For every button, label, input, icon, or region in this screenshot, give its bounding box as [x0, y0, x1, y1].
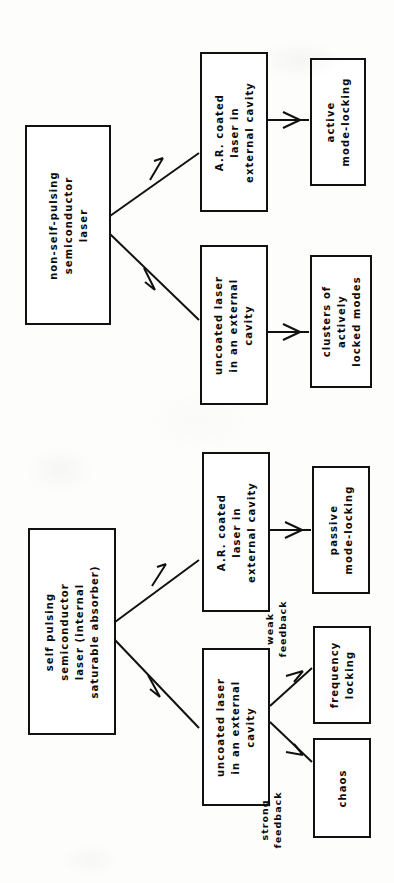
- chaos-box[interactable]: chaos: [313, 738, 371, 838]
- passive-mode-locking-label: passive mode-locking: [326, 485, 356, 574]
- text-line: laser (internal: [72, 565, 87, 698]
- text-line: feedback: [271, 792, 284, 849]
- weak-feedback-text: weak feedback: [263, 601, 289, 658]
- text-line: A.R. coated: [214, 482, 229, 583]
- edge-root-to-uncoated: [115, 640, 199, 728]
- text-line: uncoated laser: [214, 677, 229, 776]
- text-line: passive: [326, 485, 341, 574]
- frequency-locking-box[interactable]: frequency locking: [313, 626, 371, 724]
- ar-coated-laser-box[interactable]: A.R. coated laser in external cavity: [202, 452, 270, 612]
- arrowhead-uncoated-to-chaos: [286, 744, 303, 755]
- text-line: external cavity: [244, 482, 259, 583]
- edge-uncoated-to-chaos: [270, 722, 312, 762]
- frequency-locking-label: frequency locking: [327, 642, 357, 709]
- passive-mode-locking-box[interactable]: passive mode-locking: [312, 466, 370, 594]
- strong-feedback-text: strong feedback: [258, 792, 284, 849]
- diagram-page: non-self-pulsing semiconductor laser A.R…: [0, 0, 394, 883]
- uncoated-laser-box[interactable]: uncoated laser in an external cavity: [202, 648, 270, 806]
- text-line: cavity: [244, 677, 259, 776]
- ar-coated-laser-label: A.R. coated laser in external cavity: [214, 482, 259, 583]
- text-line: chaos: [335, 769, 350, 807]
- text-line: laser in: [229, 482, 244, 583]
- uncoated-laser-label: uncoated laser in an external cavity: [214, 677, 259, 776]
- text-line: in an external: [229, 677, 244, 776]
- text-line: strong: [258, 792, 271, 849]
- strong-feedback-label: strong feedback: [252, 786, 290, 854]
- text-line: saturable absorber): [87, 565, 102, 698]
- arrowhead-uncoated-to-frequency-locking: [286, 671, 303, 682]
- text-line: mode-locking: [341, 485, 356, 574]
- chaos-label: chaos: [335, 769, 350, 807]
- arrowhead-root-to-ar-coated: [152, 564, 166, 586]
- text-line: frequency: [327, 642, 342, 709]
- weak-feedback-label: weak feedback: [258, 598, 294, 660]
- text-line: weak: [263, 601, 276, 658]
- edge-root-to-ar-coated: [115, 560, 199, 622]
- text-line: locking: [342, 642, 357, 709]
- text-line: feedback: [276, 601, 289, 658]
- text-line: self pulsing: [42, 565, 57, 698]
- self-pulsing-laser-box[interactable]: self pulsing semiconductor laser (intern…: [28, 528, 116, 735]
- text-line: semiconductor: [57, 565, 72, 698]
- self-pulsing-laser-label: self pulsing semiconductor laser (intern…: [42, 565, 102, 698]
